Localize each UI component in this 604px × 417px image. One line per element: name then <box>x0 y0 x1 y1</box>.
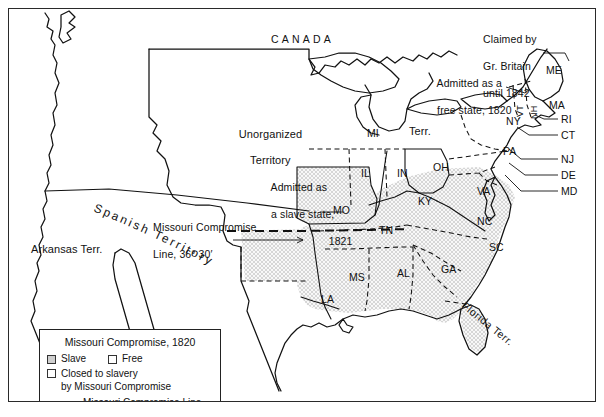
legend-label-closed-line2: by Missouri Compromise <box>61 381 171 392</box>
label-state-tn: TN <box>379 224 393 236</box>
slave-state-line1: Admitted as <box>271 181 328 193</box>
label-state-mi: MI <box>367 127 379 139</box>
legend-label-free: Free <box>122 353 143 364</box>
legend-label-compromise-line: Missouri Compromise Line <box>83 397 201 402</box>
label-state-al: AL <box>397 267 410 279</box>
map-figure: CANADA Unorganized Territory Spanish Ter… <box>0 0 604 417</box>
legend-swatch-closed-icon <box>47 369 56 378</box>
label-state-sc: SC <box>489 241 504 253</box>
label-state-mo: MO <box>333 204 350 216</box>
free-state-line1: Admitted as a <box>437 77 503 89</box>
svg-text:Florida Terr.: Florida Terr. <box>460 299 516 348</box>
legend-label-closed-line1: Closed to slavery <box>61 368 138 379</box>
map-frame: CANADA Unorganized Territory Spanish Ter… <box>8 8 596 402</box>
label-state-nh: NH <box>529 106 540 119</box>
label-state-in: IN <box>397 167 408 179</box>
label-state-md: MD <box>561 185 578 197</box>
label-state-il: IL <box>361 167 370 179</box>
claimed-line1: Claimed by <box>483 33 537 45</box>
legend-item-free: Free <box>108 353 143 364</box>
slave-state-line3: 1821 <box>271 235 352 249</box>
legend-swatch-slave-icon <box>47 355 56 364</box>
label-state-nj: NJ <box>561 153 574 165</box>
compromise-line2: Line, 36° 30′ <box>153 248 212 260</box>
label-state-ky: KY <box>418 195 432 207</box>
label-state-ma: MA <box>549 99 565 111</box>
label-state-vt: VT <box>515 105 526 117</box>
unorganized-line2: Territory <box>250 154 291 166</box>
legend-item-compromise-line: Missouri Compromise Line <box>47 397 213 402</box>
annotation-admitted-free-state: Admitted as a free state, 1820 <box>419 63 512 131</box>
florida-territory-text: Florida Terr. <box>460 299 516 348</box>
label-state-va: VA <box>477 185 490 197</box>
label-state-ga: GA <box>441 263 456 275</box>
slave-state-line2: a slave state, <box>271 208 334 220</box>
label-state-me: ME <box>546 64 562 76</box>
legend-item-slave: Slave <box>47 353 86 364</box>
legend-label-closed-wrapper: Closed to slavery by Missouri Compromise <box>61 368 171 393</box>
label-arkansas-territory: Arkansas Terr. <box>31 243 103 256</box>
unorganized-line1: Unorganized <box>239 128 302 140</box>
legend-item-closed: Closed to slavery by Missouri Compromise <box>47 368 213 393</box>
compromise-line1: Missouri Compromise <box>153 221 256 233</box>
legend-title: Missouri Compromise, 1820 <box>47 336 213 348</box>
label-state-ri: RI <box>561 113 572 125</box>
legend-label-slave: Slave <box>61 353 86 364</box>
label-canada: CANADA <box>271 33 334 45</box>
annotation-admitted-slave-state: Admitted as a slave state, 1821 <box>253 167 334 262</box>
label-state-de: DE <box>561 169 576 181</box>
free-state-line2: free state, 1820 <box>437 104 512 116</box>
label-state-nc: NC <box>477 215 492 227</box>
label-state-ct: CT <box>561 129 575 141</box>
map-legend: Missouri Compromise, 1820 Slave Free <box>39 329 221 402</box>
label-state-oh: OH <box>433 161 449 173</box>
label-florida-territory: Florida Terr. <box>457 281 577 375</box>
legend-swatch-free-icon <box>108 355 117 364</box>
label-state-ms: MS <box>349 271 365 283</box>
annotation-compromise-line: Missouri Compromise Line, 36° 30′ <box>135 207 257 275</box>
label-state-pa: PA <box>503 145 516 157</box>
legend-row-slave-free: Slave Free <box>47 353 213 364</box>
label-state-la: LA <box>321 293 334 305</box>
